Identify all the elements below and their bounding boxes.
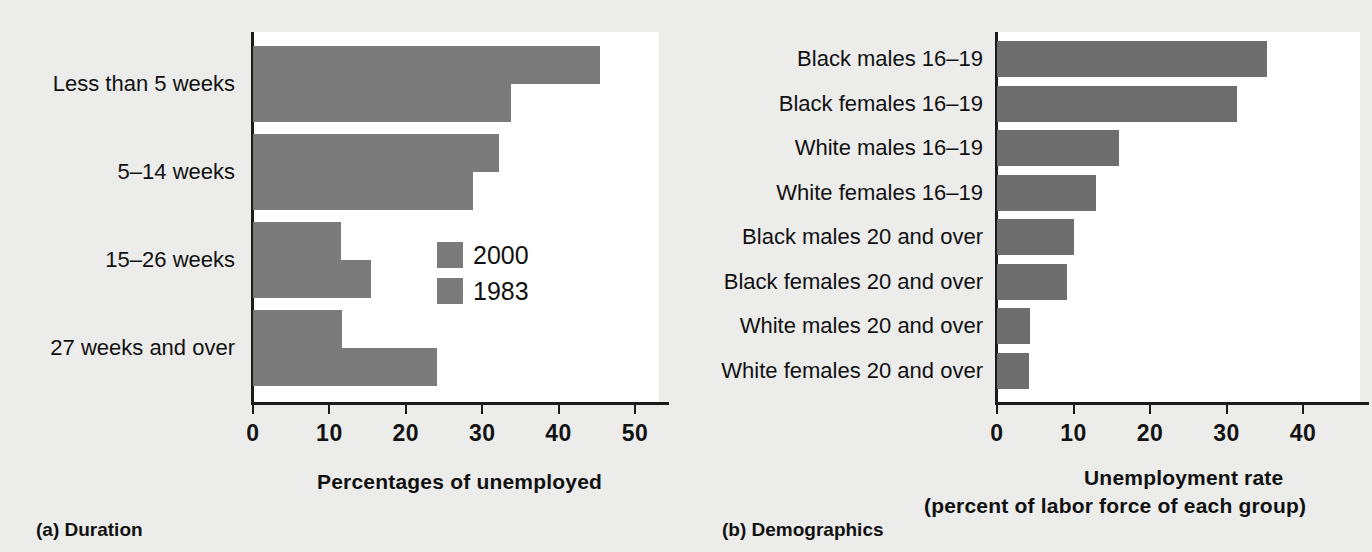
panel-demographics: 010203040 Black males 16–19Black females… bbox=[686, 0, 1372, 552]
panel-caption-demographics: (b) Demographics bbox=[722, 519, 884, 541]
legend-duration: 2000 1983 bbox=[437, 240, 529, 306]
x-axis-title-duration: Percentages of unemployed bbox=[317, 470, 602, 494]
bar-6 bbox=[997, 308, 1030, 344]
category-label-0: Black males 16–19 bbox=[686, 48, 983, 70]
x-tick-label-20: 20 bbox=[381, 420, 431, 447]
legend-label-1983: 1983 bbox=[473, 279, 529, 304]
bar-1983-0 bbox=[253, 84, 511, 122]
x-tick-30 bbox=[1226, 405, 1228, 414]
category-label-6: White males 20 and over bbox=[686, 315, 983, 337]
category-label-0: Less than 5 weeks bbox=[0, 73, 235, 95]
x-axis-title-demographics-line1: Unemployment rate bbox=[1084, 466, 1283, 490]
bar-2 bbox=[997, 130, 1119, 166]
x-tick-label-40: 40 bbox=[1278, 420, 1328, 447]
x-tick-label-20: 20 bbox=[1125, 420, 1175, 447]
category-label-3: 27 weeks and over bbox=[0, 337, 235, 359]
category-label-5: Black females 20 and over bbox=[686, 271, 983, 293]
x-tick-label-0: 0 bbox=[972, 420, 1022, 447]
x-tick-label-30: 30 bbox=[1202, 420, 1252, 447]
legend-swatch-2000 bbox=[437, 242, 463, 268]
x-tick-10 bbox=[328, 405, 330, 414]
x-tick-label-10: 10 bbox=[304, 420, 354, 447]
category-label-4: Black males 20 and over bbox=[686, 226, 983, 248]
bar-2000-2 bbox=[253, 222, 341, 260]
legend-item-2000: 2000 bbox=[437, 240, 529, 270]
bar-1983-2 bbox=[253, 260, 371, 298]
x-tick-30 bbox=[481, 405, 483, 414]
x-tick-20 bbox=[1149, 405, 1151, 414]
bar-0 bbox=[997, 41, 1267, 77]
category-label-2: White males 16–19 bbox=[686, 137, 983, 159]
x-tick-label-30: 30 bbox=[457, 420, 507, 447]
x-axis-title-demographics-line2: (percent of labor force of each group) bbox=[924, 494, 1306, 518]
bar-1983-3 bbox=[253, 348, 437, 386]
x-tick-40 bbox=[558, 405, 560, 414]
bar-1 bbox=[997, 86, 1237, 122]
bar-2000-1 bbox=[253, 134, 499, 172]
category-label-3: White females 16–19 bbox=[686, 182, 983, 204]
panel-duration: 01020304050 Less than 5 weeks5–14 weeks1… bbox=[0, 0, 686, 552]
bar-7 bbox=[997, 353, 1029, 389]
x-axis-line-duration bbox=[251, 402, 669, 405]
bar-4 bbox=[997, 219, 1074, 255]
category-label-2: 15–26 weeks bbox=[0, 249, 235, 271]
x-tick-40 bbox=[1302, 405, 1304, 414]
x-tick-label-50: 50 bbox=[610, 420, 660, 447]
legend-swatch-1983 bbox=[437, 278, 463, 304]
bar-3 bbox=[997, 175, 1096, 211]
legend-label-2000: 2000 bbox=[473, 243, 529, 268]
x-tick-20 bbox=[405, 405, 407, 414]
category-label-7: White females 20 and over bbox=[686, 360, 983, 382]
x-tick-0 bbox=[996, 405, 998, 414]
panel-caption-duration: (a) Duration bbox=[36, 519, 143, 541]
x-tick-label-0: 0 bbox=[228, 420, 278, 447]
x-tick-label-10: 10 bbox=[1049, 420, 1099, 447]
x-tick-50 bbox=[634, 405, 636, 414]
x-axis-line-demographics bbox=[995, 402, 1369, 405]
category-label-1: 5–14 weeks bbox=[0, 161, 235, 183]
legend-item-1983: 1983 bbox=[437, 276, 529, 306]
category-label-1: Black females 16–19 bbox=[686, 93, 983, 115]
figure-root: 01020304050 Less than 5 weeks5–14 weeks1… bbox=[0, 0, 1372, 552]
bar-2000-3 bbox=[253, 310, 342, 348]
bar-2000-0 bbox=[253, 46, 600, 84]
bar-5 bbox=[997, 264, 1067, 300]
bar-1983-1 bbox=[253, 172, 473, 210]
x-tick-10 bbox=[1073, 405, 1075, 414]
x-tick-0 bbox=[252, 405, 254, 414]
x-tick-label-40: 40 bbox=[534, 420, 584, 447]
